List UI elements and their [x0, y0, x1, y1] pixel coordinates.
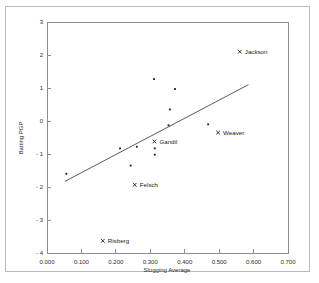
data-point-marker	[174, 88, 176, 90]
data-point-label: Risberg	[108, 237, 130, 244]
data-point-marker	[133, 183, 137, 187]
x-tick-label: 0.200	[108, 259, 124, 265]
y-tick-label: - 3	[36, 217, 44, 223]
data-point-marker	[136, 146, 138, 148]
x-tick-label: 0.100	[74, 259, 90, 265]
y-tick-label: - 4	[36, 250, 44, 256]
x-tick-label: 0.000	[39, 259, 55, 265]
data-point-label: Jackson	[245, 48, 268, 55]
data-point-marker	[130, 165, 132, 167]
x-tick-label: 0.400	[177, 259, 193, 265]
data-point-marker	[153, 78, 155, 80]
y-tick-label: 1	[40, 85, 44, 91]
data-point-label: Gandil	[159, 138, 177, 145]
data-point-marker	[153, 140, 157, 144]
data-point-marker	[154, 147, 156, 149]
y-tick-label: 0	[40, 118, 44, 124]
y-tick-label: - 2	[36, 184, 44, 190]
y-axis-title: Batting PGP	[18, 121, 24, 154]
data-point-label: Felsch	[140, 181, 159, 188]
x-tick-label: 0.700	[280, 259, 296, 265]
data-point-marker	[101, 239, 105, 243]
x-axis: 0.0000.1000.2000.3000.4000.5000.6000.700	[39, 249, 296, 265]
data-point-marker	[154, 154, 156, 156]
chart-figure: 0.0000.1000.2000.3000.4000.5000.6000.700…	[0, 0, 319, 283]
data-point-marker	[169, 109, 171, 111]
data-point-marker	[216, 131, 220, 135]
regression-line	[65, 85, 249, 182]
y-tick-label: 3	[40, 19, 44, 25]
data-point-label: Weaver	[223, 129, 244, 136]
scatter-plot: 0.0000.1000.2000.3000.4000.5000.6000.700…	[0, 0, 319, 283]
x-tick-label: 0.500	[212, 259, 228, 265]
x-tick-label: 0.600	[246, 259, 262, 265]
data-point-marker	[65, 173, 67, 175]
data-point-marker	[207, 123, 209, 125]
data-points	[65, 50, 241, 243]
data-point-marker	[168, 124, 170, 126]
x-axis-title: Slugging Average	[144, 267, 192, 273]
y-tick-label: 2	[40, 52, 44, 58]
data-point-marker	[119, 147, 121, 149]
y-tick-label: - 1	[36, 151, 44, 157]
data-point-marker	[238, 50, 242, 54]
x-tick-label: 0.300	[143, 259, 159, 265]
y-axis: 3210- 1- 2- 3- 4	[36, 19, 51, 256]
